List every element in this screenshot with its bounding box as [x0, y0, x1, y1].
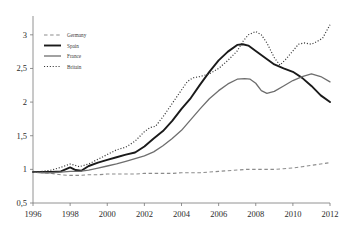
- x-tick-label: 2004: [173, 209, 191, 219]
- y-tick-label: 2: [23, 97, 27, 107]
- legend-label-germany: Germany: [67, 32, 87, 38]
- y-tick-label: 1,5: [16, 131, 27, 141]
- legend-label-france: France: [67, 53, 82, 59]
- y-tick-label: 1: [23, 164, 27, 174]
- x-tick-label: 2000: [99, 209, 116, 219]
- x-tick-label: 2002: [136, 209, 153, 219]
- x-tick-label: 2012: [322, 209, 339, 219]
- series-line-germany: [33, 163, 330, 176]
- line-chart: 0,511,522,531996199820002002200420062008…: [0, 0, 349, 232]
- chart-container: 0,511,522,531996199820002002200420062008…: [0, 0, 349, 232]
- y-tick-label: 3: [23, 30, 27, 40]
- y-tick-label: 0,5: [16, 198, 27, 208]
- chart-legend: GermanySpainFranceBritain: [44, 32, 87, 70]
- x-tick-label: 2008: [247, 209, 264, 219]
- x-tick-label: 1996: [25, 209, 42, 219]
- x-tick-label: 2006: [210, 209, 227, 219]
- y-tick-label: 2,5: [16, 63, 27, 73]
- legend-label-spain: Spain: [67, 43, 79, 49]
- x-tick-label: 1998: [62, 209, 79, 219]
- series-line-france: [33, 74, 330, 173]
- legend-label-britain: Britain: [67, 64, 82, 70]
- x-tick-label: 2010: [284, 209, 301, 219]
